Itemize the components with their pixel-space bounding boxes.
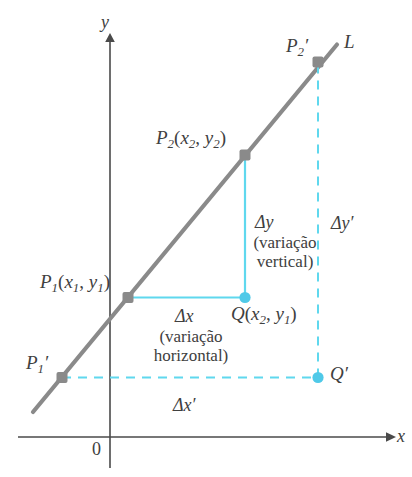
point-P1-prime-label: P1′ — [26, 353, 48, 376]
delta-x-description-line1: (variação — [133, 327, 249, 346]
delta-y-description-line1: (variação — [239, 233, 331, 252]
delta-x-description: (variação horizontal) — [133, 327, 249, 365]
point-P2-prime-label: P2′ — [286, 36, 308, 59]
point-P2-prime-marker — [313, 57, 324, 68]
y-axis-label: y — [101, 13, 109, 31]
delta-x-description-line2: horizontal) — [133, 346, 249, 365]
point-P1-marker — [123, 292, 134, 303]
prime-glyph: ′ — [344, 363, 348, 384]
delta-y-description-line2: vertical) — [239, 252, 331, 271]
point-P2-marker — [240, 150, 251, 161]
line-L-label: L — [344, 32, 355, 51]
delta-y-prime-label: Δy′ — [331, 214, 354, 232]
delta-x-label: Δx — [175, 307, 194, 325]
origin-label: 0 — [92, 440, 101, 458]
diagram-canvas — [0, 0, 412, 477]
y-axis — [105, 33, 115, 468]
point-Q-label: Q(x2, y1) — [231, 304, 297, 327]
prime-glyph: ′ — [44, 352, 48, 373]
point-P1-prime-marker — [57, 372, 68, 383]
point-P2-label: P2(x2, y2) — [156, 128, 226, 151]
point-Q-prime-label: Q′ — [330, 364, 348, 383]
x-axis-label: x — [397, 427, 405, 445]
line-slope-diagram: y x 0 L P2′ P2(x2, y2) P1(x1, y1) P1′ Q(… — [0, 0, 412, 477]
point-Q-marker — [239, 292, 250, 303]
x-axis — [18, 432, 396, 442]
point-Q-prime-marker — [312, 372, 323, 383]
delta-x-prime-label: Δx′ — [173, 396, 196, 414]
delta-y-description: (variação vertical) — [239, 233, 331, 271]
delta-y-label: Δy — [255, 213, 274, 231]
point-P1-label: P1(x1, y1) — [40, 272, 110, 295]
prime-glyph: ′ — [304, 35, 308, 56]
